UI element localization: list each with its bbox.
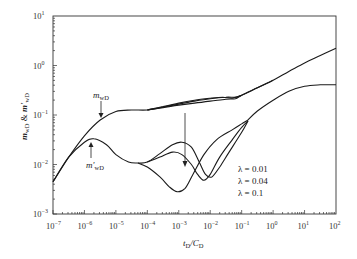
- arrowhead-icon: [183, 161, 188, 167]
- x-tick-label: 10−2: [203, 220, 218, 231]
- annotation-mpwd-label: m'wD: [86, 160, 104, 171]
- y-tick-labels: 10110010−110−210−3: [33, 10, 48, 219]
- annotation-mpwd: m'wD: [86, 142, 104, 171]
- x-tick-label: 10−6: [77, 220, 92, 231]
- y-tick-label: 10−2: [33, 159, 48, 170]
- curve-m-wd-0-01-: [53, 121, 248, 182]
- y-axis-title: mwD & m'wD: [19, 93, 30, 140]
- curve-mwd-0-01-: [53, 48, 336, 182]
- plot-frame: [53, 16, 336, 214]
- chart-svg: 10−710−610−510−410−310−210−1100101102 10…: [0, 0, 357, 259]
- y-tick-label: 100: [33, 60, 45, 71]
- y-tick-label: 10−3: [33, 208, 48, 219]
- lambda-legend: λ = 0.01 λ = 0.04 λ = 0.1: [238, 164, 268, 198]
- annotation-mwd-label: mwD: [93, 90, 109, 101]
- curve-m-wd-tail: [248, 85, 336, 120]
- legend-lambda-0.1: λ = 0.1: [238, 188, 263, 198]
- x-tick-label: 101: [298, 220, 310, 231]
- curve-m-wd-0-1-: [138, 120, 248, 192]
- x-tick-label: 10−5: [109, 220, 124, 231]
- legend-lambda-0.04: λ = 0.04: [238, 176, 268, 186]
- x-axis-title: tD/CD: [183, 238, 204, 249]
- y-tick-label: 101: [33, 10, 45, 21]
- x-tick-label: 102: [329, 220, 341, 231]
- x-tick-label: 100: [266, 220, 278, 231]
- x-tick-label: 10−1: [235, 220, 250, 231]
- y-tick-label: 10−1: [33, 109, 48, 120]
- arrowhead-icon: [89, 142, 94, 147]
- arrowhead-icon: [99, 113, 104, 118]
- x-tick-label: 10−4: [140, 220, 155, 231]
- x-tick-label: 10−7: [46, 220, 61, 231]
- axis-ticks: [53, 18, 335, 214]
- legend-lambda-0.01: λ = 0.01: [238, 164, 268, 174]
- x-tick-labels: 10−710−610−510−410−310−210−1100101102: [46, 220, 341, 231]
- annotation-mwd: mwD: [93, 90, 109, 118]
- x-tick-label: 10−3: [172, 220, 187, 231]
